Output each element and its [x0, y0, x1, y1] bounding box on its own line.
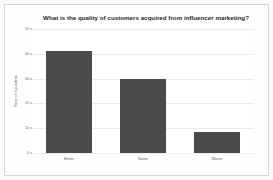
bar-better[interactable]: [46, 51, 92, 153]
y-tick-label: 10: [25, 126, 29, 130]
chart-title: What is the quality of customers acquire…: [28, 14, 264, 22]
y-tick-mark: [30, 153, 32, 154]
y-tick-mark: [30, 103, 32, 104]
y-tick-mark: [30, 128, 32, 129]
x-tick-label: Worse: [212, 157, 223, 161]
y-tick-mark: [30, 53, 32, 54]
chart-figure: What is the quality of customers acquire…: [0, 0, 273, 180]
y-tick-label: 50: [25, 27, 29, 31]
y-axis-title: Share of respondents: [14, 75, 18, 107]
y-tick-mark: [30, 78, 32, 79]
bar-same[interactable]: [120, 79, 166, 153]
y-tick-label: 20: [25, 101, 29, 105]
y-tick-mark: [30, 29, 32, 30]
plot-area: 01020304050: [32, 29, 254, 153]
y-tick-label: 40: [25, 52, 29, 56]
bar-worse[interactable]: [194, 132, 240, 153]
x-tick-label: Better: [64, 157, 74, 161]
y-tick-label: 30: [25, 77, 29, 81]
gridline: [32, 29, 254, 30]
gridline: [32, 153, 254, 154]
x-tick-label: Same: [138, 157, 148, 161]
y-tick-label: 0: [27, 151, 29, 155]
